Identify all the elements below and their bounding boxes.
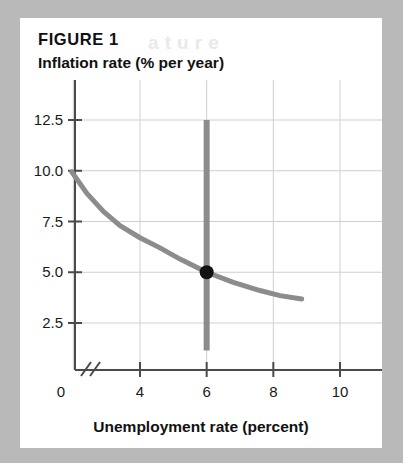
figure-card: a t u r e FIGURE 1 Inflation rate (% per…: [20, 18, 382, 448]
short-run-phillips-curve: [72, 172, 302, 299]
x-tick-label: 0: [57, 383, 65, 400]
equilibrium-point: [200, 265, 214, 279]
y-tick-label: 7.5: [42, 213, 63, 230]
horizontal-gridlines: [75, 120, 382, 323]
x-tick-labels: 046810: [57, 383, 349, 400]
x-tick-label: 10: [332, 383, 349, 400]
x-axis-title: Unemployment rate (percent): [20, 418, 382, 436]
y-tick-label: 12.5: [34, 111, 63, 128]
x-tick-label: 6: [202, 383, 210, 400]
x-tick-label: 8: [269, 383, 277, 400]
x-tick-label: 4: [136, 383, 144, 400]
data-markers-layer: [200, 265, 214, 279]
phillips-curve-plot: 2.55.07.510.012.5 046810: [20, 18, 382, 448]
y-tick-labels: 2.55.07.510.012.5: [34, 111, 63, 331]
data-series-layer: [72, 120, 302, 350]
y-tick-label: 2.5: [42, 314, 63, 331]
y-tick-label: 5.0: [42, 263, 63, 280]
y-tick-label: 10.0: [34, 162, 63, 179]
